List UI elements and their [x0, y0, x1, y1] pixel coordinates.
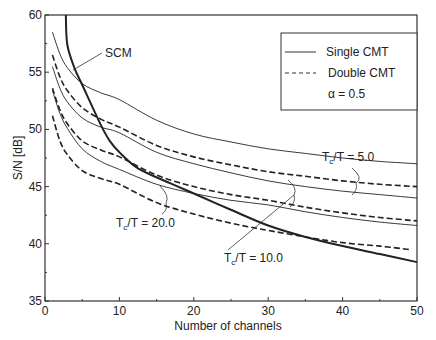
annot-tc10-leader	[228, 195, 294, 250]
x-tick-label: 0	[42, 304, 49, 318]
y-axis-label: S/N [dB]	[11, 136, 25, 181]
y-tick-label: 45	[29, 180, 43, 194]
y-tick-label: 40	[29, 237, 43, 251]
legend: Single CMT Double CMT α = 0.5	[281, 33, 417, 110]
y-tick-label: 50	[29, 122, 43, 136]
y-tick-label: 35	[29, 294, 43, 308]
annot-tc5: Tc/T = 5.0	[322, 150, 374, 166]
x-tick-label: 10	[113, 304, 127, 318]
annot-tc20: Tc/T = 20.0	[116, 216, 175, 232]
x-tick-label: 40	[336, 304, 350, 318]
y-tick-label: 60	[29, 8, 43, 22]
x-tick-label: 20	[187, 304, 201, 318]
x-tick-label: 30	[262, 304, 276, 318]
x-axis-label: Number of channels	[174, 319, 281, 333]
x-tick-label: 50	[410, 304, 424, 318]
legend-label-double: Double CMT	[328, 66, 396, 80]
y-tick-label: 55	[29, 65, 43, 79]
annot-tc10: Tc/T = 10.0	[224, 251, 283, 267]
legend-label-single: Single CMT	[326, 45, 389, 59]
annot-scm-leader	[73, 53, 102, 70]
chart: 01020304050354045505560Number of channel…	[0, 0, 436, 340]
annot-scm: SCM	[105, 46, 132, 60]
legend-note-alpha: α = 0.5	[328, 87, 366, 101]
annot-tc20-brace	[160, 186, 167, 214]
